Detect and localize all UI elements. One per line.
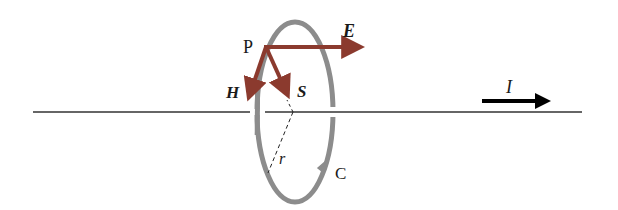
label-e: E	[342, 21, 355, 41]
radius-line-upper	[287, 100, 293, 112]
contour-direction-arrow	[318, 162, 325, 172]
label-i: I	[505, 77, 513, 97]
s-vector-arrow	[266, 47, 285, 89]
poynting-diagram: P E H S r C I	[0, 0, 618, 210]
label-r: r	[279, 150, 286, 167]
label-s: S	[297, 82, 306, 101]
label-c: C	[335, 164, 346, 183]
label-point-p: P	[243, 37, 253, 57]
label-h: H	[225, 83, 240, 102]
